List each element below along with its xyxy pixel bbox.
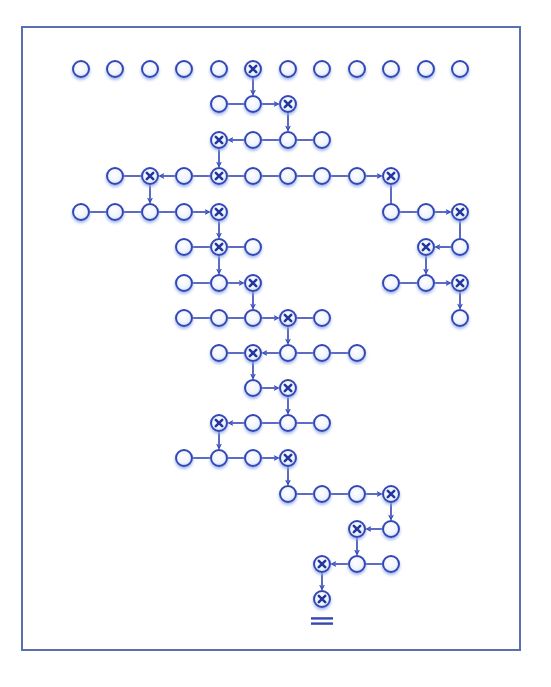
node — [280, 61, 296, 77]
node — [245, 380, 261, 396]
node — [383, 521, 399, 537]
node — [280, 486, 296, 502]
node — [314, 61, 330, 77]
crossed-node — [211, 239, 227, 255]
node — [314, 415, 330, 431]
crossed-node — [211, 415, 227, 431]
crossed-node — [314, 556, 330, 572]
node — [383, 275, 399, 291]
crossed-node — [383, 486, 399, 502]
node — [176, 310, 192, 326]
node — [383, 61, 399, 77]
node — [280, 168, 296, 184]
crossed-node — [280, 310, 296, 326]
node — [314, 310, 330, 326]
node — [176, 275, 192, 291]
node — [452, 61, 468, 77]
crossed-node — [245, 275, 261, 291]
node — [107, 168, 123, 184]
crossed-node — [452, 275, 468, 291]
node — [418, 275, 434, 291]
crossed-node — [211, 204, 227, 220]
node — [245, 168, 261, 184]
node-chain-diagram: = — [0, 0, 551, 687]
node — [245, 310, 261, 326]
equals-bar — [311, 622, 333, 624]
node — [211, 61, 227, 77]
node — [418, 61, 434, 77]
node — [349, 345, 365, 361]
node — [176, 204, 192, 220]
crossed-node — [349, 521, 365, 537]
equals-symbol: = — [311, 617, 333, 625]
node — [280, 345, 296, 361]
node — [211, 450, 227, 466]
crossed-node — [211, 168, 227, 184]
node — [142, 61, 158, 77]
node — [314, 345, 330, 361]
node — [314, 486, 330, 502]
node — [349, 61, 365, 77]
node — [211, 310, 227, 326]
node — [452, 310, 468, 326]
node — [418, 204, 434, 220]
node — [383, 556, 399, 572]
node — [314, 168, 330, 184]
node — [176, 168, 192, 184]
crossed-node — [418, 239, 434, 255]
node — [383, 204, 399, 220]
node — [349, 168, 365, 184]
node — [349, 556, 365, 572]
crossed-node — [245, 345, 261, 361]
node — [245, 450, 261, 466]
node — [176, 450, 192, 466]
node — [314, 132, 330, 148]
crossed-node — [452, 204, 468, 220]
node — [452, 239, 468, 255]
crossed-node — [383, 168, 399, 184]
node — [176, 239, 192, 255]
node — [211, 275, 227, 291]
node — [73, 204, 89, 220]
node — [107, 61, 123, 77]
node — [142, 204, 158, 220]
nodes-layer — [73, 61, 468, 607]
crossed-node — [280, 96, 296, 112]
node — [245, 239, 261, 255]
node — [245, 96, 261, 112]
node — [176, 61, 192, 77]
node — [73, 61, 89, 77]
node — [211, 96, 227, 112]
crossed-node — [211, 132, 227, 148]
node — [245, 132, 261, 148]
node — [349, 486, 365, 502]
crossed-node — [280, 380, 296, 396]
node — [280, 415, 296, 431]
node — [280, 132, 296, 148]
crossed-node — [245, 61, 261, 77]
crossed-node — [280, 450, 296, 466]
node — [211, 345, 227, 361]
node — [107, 204, 123, 220]
crossed-node — [314, 591, 330, 607]
crossed-node — [142, 168, 158, 184]
edges-layer — [90, 78, 460, 590]
node — [245, 415, 261, 431]
equals-bar — [311, 617, 333, 619]
